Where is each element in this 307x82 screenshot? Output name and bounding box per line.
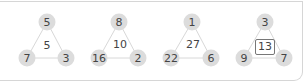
top-node: 1 <box>184 14 201 31</box>
center-value: 27 <box>186 38 200 51</box>
left-node: 16 <box>91 50 108 67</box>
right-node: 3 <box>58 50 75 67</box>
right-node: 7 <box>276 50 293 67</box>
triangle-puzzle-2: 8 16 2 10 <box>83 0 155 82</box>
top-node: 8 <box>111 14 128 31</box>
top-node: 5 <box>39 14 56 31</box>
center-value: 10 <box>113 38 127 51</box>
left-node: 22 <box>163 50 180 67</box>
left-node: 9 <box>236 50 253 67</box>
triangle-puzzle-3: 1 22 6 27 <box>156 0 228 82</box>
triangle-puzzle-1: 5 7 3 5 <box>11 0 83 82</box>
left-node: 7 <box>19 50 36 67</box>
right-node: 6 <box>203 50 220 67</box>
right-node: 2 <box>130 50 147 67</box>
answer-box: 13 <box>255 39 275 55</box>
triangle-puzzle-4: 3 9 7 13 <box>229 0 301 82</box>
center-value: 5 <box>44 39 51 52</box>
top-node: 3 <box>257 14 274 31</box>
